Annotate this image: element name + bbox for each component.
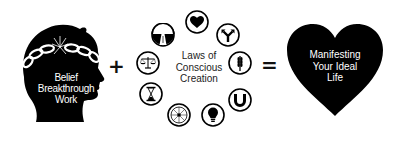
wheat-icon [228, 51, 252, 75]
label-line: Manifesting [303, 49, 367, 61]
fork-arrow-icon [216, 23, 240, 47]
label-line: Belief [34, 72, 98, 83]
label-line: Creation [168, 73, 230, 85]
hourglass-icon [139, 82, 163, 106]
label-line: Work [34, 94, 98, 105]
label-line: Conscious [168, 62, 230, 74]
magnet-icon [228, 88, 252, 112]
manifesting-heart: Manifesting Your Ideal Life [285, 22, 385, 118]
belief-breakthrough-label: Belief Breakthrough Work [34, 72, 98, 105]
label-line: Life [303, 72, 367, 84]
laws-label: Laws of Conscious Creation [168, 50, 230, 85]
scales-icon [136, 51, 160, 75]
belief-breakthrough-head: Belief Breakthrough Work [14, 22, 106, 122]
label-line: Breakthrough [34, 83, 98, 94]
road-icon [151, 23, 175, 47]
plus-operator: + [108, 56, 125, 76]
label-line: Laws of [168, 50, 230, 62]
compass-star-icon [167, 103, 191, 127]
manifesting-label: Manifesting Your Ideal Life [303, 49, 367, 84]
heart-icon [185, 10, 209, 34]
label-line: Your Ideal [303, 61, 367, 73]
equals-operator: = [261, 55, 278, 75]
lightbulb-icon [201, 103, 225, 127]
